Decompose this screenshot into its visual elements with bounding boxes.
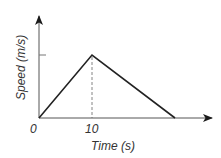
speed-line (39, 55, 175, 118)
x-tick-label-10: 10 (85, 122, 99, 136)
x-axis-title: Time (s) (91, 139, 135, 153)
y-axis-title: Speed (m/s) (14, 35, 28, 100)
origin-label: 0 (30, 122, 37, 136)
speed-time-graph: 0 10 Time (s) Speed (m/s) (0, 0, 221, 158)
